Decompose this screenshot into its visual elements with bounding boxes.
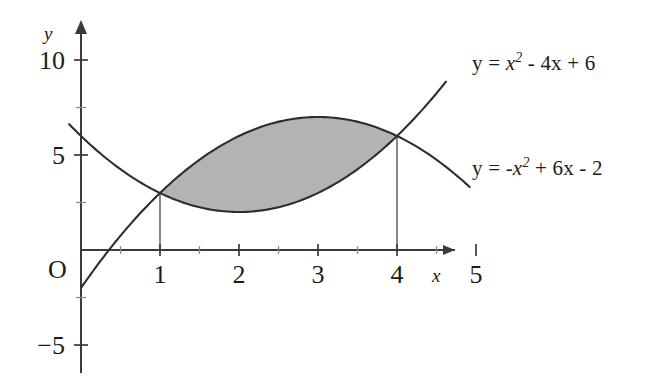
- x-tick-label-4: 4: [391, 260, 404, 289]
- y-axis-name-label: y: [42, 23, 53, 44]
- y-axis-arrowhead: [75, 20, 87, 34]
- y-tick-label-10: 10: [39, 46, 65, 75]
- lower-eq-lhs: y = -: [472, 156, 513, 180]
- x-axis-name-label: x: [431, 265, 441, 286]
- x-axis-arrowhead: [443, 245, 455, 255]
- upper-eq-lhs: y =: [472, 51, 506, 75]
- lower-eq-rest-text: + 6x - 2: [530, 156, 603, 180]
- upper-eq-base: x: [506, 51, 516, 75]
- lower-curve-equation-label: y = -x2 + 6x - 2: [472, 155, 603, 181]
- lower-eq-exponent: 2: [522, 155, 529, 170]
- lower-eq-base: x: [513, 156, 523, 180]
- x-tick-label-5: 5: [470, 260, 483, 289]
- origin-label: O: [48, 255, 67, 284]
- x-tick-label-1: 1: [154, 260, 167, 289]
- upper-curve-equation-label: y = x2 - 4x + 6: [472, 50, 595, 76]
- upper-eq-rest: - 4x + 6: [522, 51, 595, 75]
- upper-eq-rest-text: - 4x + 6: [522, 51, 595, 75]
- lower-eq-rest: + 6x - 2: [530, 156, 603, 180]
- x-tick-label-3: 3: [312, 260, 325, 289]
- y-tick-label--5: −5: [37, 331, 65, 360]
- figure-container: 12345105−5 O y x y = x2 - 4x + 6 y = -x2…: [0, 0, 651, 383]
- y-tick-label-5: 5: [52, 141, 65, 170]
- x-tick-label-2: 2: [233, 260, 246, 289]
- shaded-area-between-curves: [160, 117, 397, 212]
